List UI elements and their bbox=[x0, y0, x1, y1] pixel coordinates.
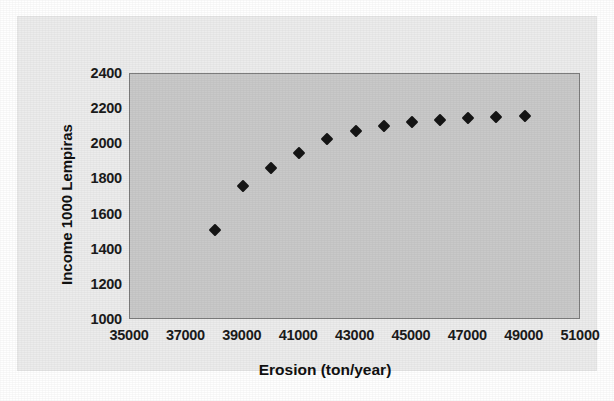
x-axis-tick-label: 47000 bbox=[448, 327, 487, 343]
scatter-points-layer bbox=[130, 74, 579, 318]
x-axis-tick-label: 51000 bbox=[561, 327, 600, 343]
chart-figure: 10001200140016001800200022002400 3500037… bbox=[0, 0, 614, 401]
data-point bbox=[434, 113, 447, 126]
x-axis-tick-label: 49000 bbox=[504, 327, 543, 343]
x-axis-tick-label: 45000 bbox=[391, 327, 430, 343]
y-axis-title: Income 1000 Lempiras bbox=[58, 90, 75, 320]
data-point bbox=[208, 224, 221, 237]
x-axis-tick-label: 35000 bbox=[110, 327, 149, 343]
data-point bbox=[321, 133, 334, 146]
data-point bbox=[518, 109, 531, 122]
data-point bbox=[462, 112, 475, 125]
x-axis-tick-label: 37000 bbox=[166, 327, 205, 343]
data-point bbox=[377, 119, 390, 132]
plot-area bbox=[129, 73, 580, 319]
x-axis-tick-label: 39000 bbox=[222, 327, 261, 343]
data-point bbox=[490, 110, 503, 123]
x-axis-tick-label: 41000 bbox=[279, 327, 318, 343]
data-point bbox=[349, 125, 362, 138]
x-axis-tick-labels: 3500037000390004100043000450004700049000… bbox=[18, 327, 614, 349]
data-point bbox=[265, 162, 278, 175]
data-point bbox=[406, 116, 419, 129]
x-axis-tick-label: 43000 bbox=[335, 327, 374, 343]
x-axis-title: Erosion (ton/year) bbox=[18, 361, 614, 379]
data-point bbox=[293, 147, 306, 160]
y-axis-tick-label: 2400 bbox=[64, 65, 122, 81]
chart-canvas: 10001200140016001800200022002400 3500037… bbox=[18, 17, 596, 370]
data-point bbox=[236, 179, 249, 192]
